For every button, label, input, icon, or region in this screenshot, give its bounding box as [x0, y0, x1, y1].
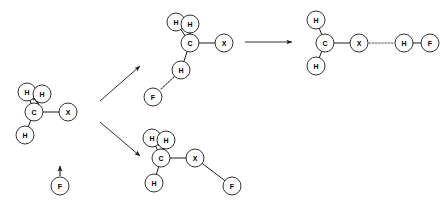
structure-fluoride-anion: F [51, 166, 69, 195]
reaction-arrow-upper-pathway [100, 66, 140, 101]
structure-reactant-halomethane: H H C H X [16, 83, 77, 144]
atom-f: F [421, 34, 439, 52]
structure-product-halogen-fluorine-adduct: H H C H X F [143, 129, 241, 195]
structure-product-hydrogen-fluoride-complex: H C H X H F [307, 11, 439, 75]
atom-circle-h [145, 174, 163, 192]
atom-circle-f [223, 177, 241, 195]
atom-h3: H [172, 61, 190, 79]
atom-h3: H [395, 34, 413, 52]
atom-x: X [186, 149, 204, 167]
atom-circle-f [144, 88, 162, 106]
reaction-arrow-lower-pathway [100, 122, 140, 156]
atom-circle-h [157, 131, 175, 149]
bond-h-f-dotted [160, 77, 174, 90]
atom-circle-h [181, 15, 199, 33]
atom-circle-x [59, 103, 77, 121]
atom-c: C [316, 34, 334, 52]
atom-circle-h [16, 126, 34, 144]
atom-h1: H [307, 11, 325, 29]
atom-c: C [25, 103, 43, 121]
reaction-scheme-diagram: H H C H X F [0, 0, 445, 206]
atom-x: X [59, 103, 77, 121]
structure-transition-state-hydrogen-bond: H H C X H F [144, 13, 233, 106]
atom-circle-x [186, 149, 204, 167]
atom-circle-h [172, 61, 190, 79]
atom-circle-f [421, 34, 439, 52]
atom-h2: H [181, 15, 199, 33]
chemical-scheme-canvas: H H C H X F [0, 0, 445, 206]
atom-h2: H [157, 131, 175, 149]
atom-c: C [181, 34, 199, 52]
atom-h3: H [16, 126, 34, 144]
atom-f: F [223, 177, 241, 195]
atom-circle-h [395, 34, 413, 52]
atom-circle-c [25, 103, 43, 121]
atom-circle-x [215, 34, 233, 52]
atom-h3: H [145, 174, 163, 192]
atom-x: X [350, 34, 368, 52]
atom-h2: H [307, 57, 325, 75]
atom-circle-h [307, 57, 325, 75]
atom-x: X [215, 34, 233, 52]
atom-c: C [152, 149, 170, 167]
atom-circle-c [152, 149, 170, 167]
atom-circle-x [350, 34, 368, 52]
atom-circle-c [316, 34, 334, 52]
atom-h2: H [33, 85, 51, 103]
atom-f: F [144, 88, 162, 106]
atom-circle-f [51, 177, 69, 195]
atom-circle-h [307, 11, 325, 29]
atom-circle-c [181, 34, 199, 52]
atom-circle-h [33, 85, 51, 103]
